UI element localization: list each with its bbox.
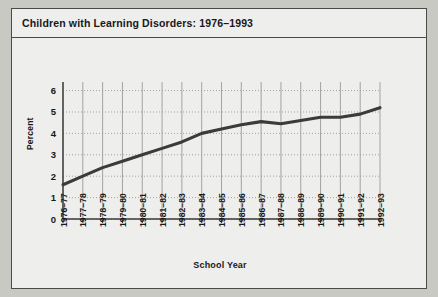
x-axis-tick-labels: 1976–771977–781978–791979–801980–811981–… — [59, 193, 386, 227]
x-tick-label: 1978–79 — [98, 193, 108, 227]
page-title: Children with Learning Disorders: 1976–1… — [12, 17, 253, 29]
line-chart-svg: 0123456 1976–771977–781978–791979–801980… — [12, 38, 428, 289]
x-tick-label: 1992–93 — [376, 193, 386, 227]
y-tick-label: 3 — [51, 149, 56, 160]
x-tick-label: 1986–87 — [257, 193, 267, 227]
x-tick-label: 1979–80 — [118, 193, 128, 227]
x-tick-label: 1980–81 — [138, 193, 148, 227]
x-tick-label: 1990–91 — [336, 193, 346, 227]
y-tick-label: 5 — [51, 106, 57, 117]
x-tick-label: 1987–88 — [276, 193, 286, 227]
y-tick-label: 6 — [51, 85, 56, 96]
x-tick-label: 1984–85 — [217, 193, 227, 227]
x-tick-label: 1977–78 — [78, 193, 88, 227]
y-axis-tick-labels: 0123456 — [51, 85, 57, 224]
x-tick-label: 1981–82 — [158, 193, 168, 227]
y-tick-label: 1 — [51, 192, 57, 203]
y-tick-label: 4 — [51, 128, 57, 139]
x-tick-label: 1976–77 — [59, 193, 69, 227]
chart-figure: Children with Learning Disorders: 1976–1… — [11, 8, 427, 289]
x-axis-title: School Year — [12, 260, 428, 270]
y-tick-label: 2 — [51, 171, 56, 182]
plot-area-wrapper: Percent 0123456 1976–771977–781978–79197… — [12, 38, 428, 289]
x-tick-label: 1983–84 — [197, 193, 207, 227]
x-tick-label: 1991–92 — [356, 193, 366, 227]
x-tick-label: 1982–83 — [177, 193, 187, 227]
x-tick-label: 1985–86 — [237, 193, 247, 227]
x-tick-label: 1988–89 — [296, 193, 306, 227]
chart-title-band: Children with Learning Disorders: 1976–1… — [12, 9, 426, 38]
x-tick-label: 1989–90 — [316, 193, 326, 227]
y-tick-label: 0 — [51, 214, 56, 225]
